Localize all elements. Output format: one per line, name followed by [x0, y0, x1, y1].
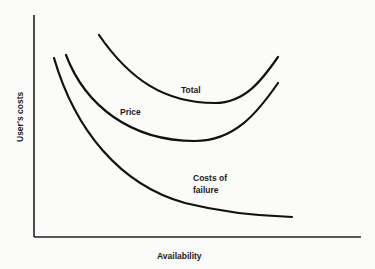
price-label: Price — [120, 107, 141, 117]
total-label: Total — [181, 85, 201, 95]
costs-of-failure-label-line1: Costs of — [193, 173, 227, 183]
costs-of-failure-label-line2: failure — [193, 185, 219, 195]
price-curve — [66, 55, 278, 141]
x-axis-label: Availability — [157, 251, 202, 261]
costs-of-failure-curve — [54, 58, 292, 217]
cost-availability-diagram: Total Price Costs of failure Availabilit… — [0, 0, 375, 269]
y-axis-label: User's costs — [15, 92, 25, 142]
